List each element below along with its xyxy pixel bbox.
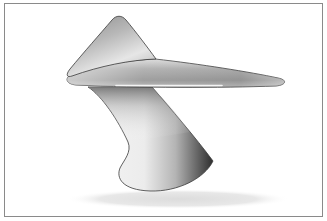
ground-shadow xyxy=(66,189,290,209)
sculpture-stem xyxy=(88,87,213,191)
sculpture-illustration xyxy=(0,0,327,221)
